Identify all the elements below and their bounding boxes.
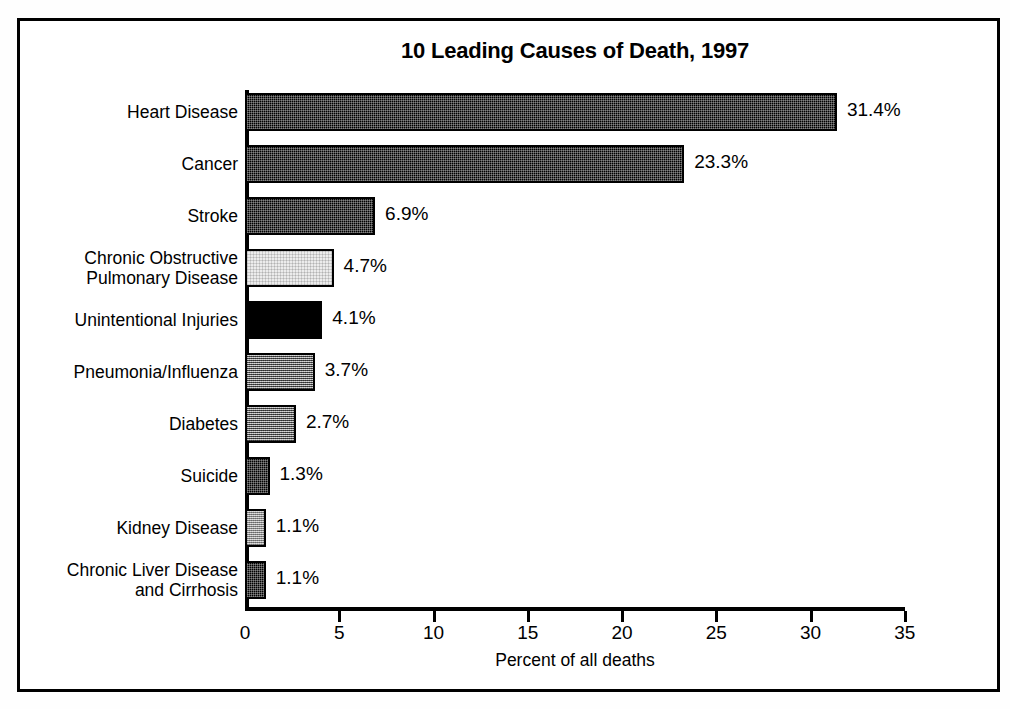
x-tick-label: 10: [404, 622, 464, 644]
x-tick-mark: [433, 611, 436, 622]
bar-value-label: 23.3%: [694, 151, 748, 173]
category-label: Suicide: [0, 466, 238, 486]
bar-row: Pneumonia/Influenza3.7%: [0, 346, 1010, 398]
bar: [245, 353, 315, 391]
category-label: Stroke: [0, 206, 238, 226]
category-label: Heart Disease: [0, 102, 238, 122]
bar-row: Chronic Liver Disease and Cirrhosis1.1%: [0, 554, 1010, 606]
x-tick-label: 15: [498, 622, 558, 644]
bar-value-label: 4.7%: [344, 255, 387, 277]
bar: [245, 405, 296, 443]
bar-row: Diabetes2.7%: [0, 398, 1010, 450]
figure: 10 Leading Causes of Death, 1997 Heart D…: [0, 0, 1010, 709]
x-tick-label: 35: [875, 622, 935, 644]
bar-value-label: 4.1%: [332, 307, 375, 329]
bar-value-label: 1.3%: [280, 463, 323, 485]
x-tick-label: 25: [686, 622, 746, 644]
bar: [245, 457, 270, 495]
bar-row: Stroke6.9%: [0, 190, 1010, 242]
category-label: Unintentional Injuries: [0, 310, 238, 330]
bar: [245, 197, 375, 235]
bar-value-label: 2.7%: [306, 411, 349, 433]
bar-value-label: 1.1%: [276, 567, 319, 589]
x-axis-title: Percent of all deaths: [245, 650, 905, 671]
bar-value-label: 31.4%: [847, 99, 901, 121]
x-tick-mark: [338, 611, 341, 622]
x-tick-mark: [810, 611, 813, 622]
x-tick-mark: [527, 611, 530, 622]
bar: [245, 93, 837, 131]
x-tick-label: 5: [309, 622, 369, 644]
x-axis-line: [245, 607, 905, 611]
bar-value-label: 1.1%: [276, 515, 319, 537]
bar-row: Heart Disease31.4%: [0, 86, 1010, 138]
bar-value-label: 3.7%: [325, 359, 368, 381]
bar-row: Suicide1.3%: [0, 450, 1010, 502]
x-tick-label: 20: [592, 622, 652, 644]
category-label: Chronic Liver Disease and Cirrhosis: [0, 560, 238, 600]
x-tick-label: 30: [781, 622, 841, 644]
bar: [245, 561, 266, 599]
bar: [245, 145, 684, 183]
bar: [245, 509, 266, 547]
x-tick-mark: [904, 611, 907, 622]
x-tick-mark: [715, 611, 718, 622]
category-label: Chronic Obstructive Pulmonary Disease: [0, 248, 238, 288]
category-label: Pneumonia/Influenza: [0, 362, 238, 382]
category-label: Diabetes: [0, 414, 238, 434]
bar-row: Chronic Obstructive Pulmonary Disease4.7…: [0, 242, 1010, 294]
bar-row: Unintentional Injuries4.1%: [0, 294, 1010, 346]
x-tick-label: 0: [215, 622, 275, 644]
chart-title: 10 Leading Causes of Death, 1997: [245, 38, 905, 64]
x-tick-mark: [621, 611, 624, 622]
bar: [245, 301, 322, 339]
bar-value-label: 6.9%: [385, 203, 428, 225]
category-label: Kidney Disease: [0, 518, 238, 538]
bar: [245, 249, 334, 287]
category-label: Cancer: [0, 154, 238, 174]
bar-row: Kidney Disease1.1%: [0, 502, 1010, 554]
bar-row: Cancer23.3%: [0, 138, 1010, 190]
